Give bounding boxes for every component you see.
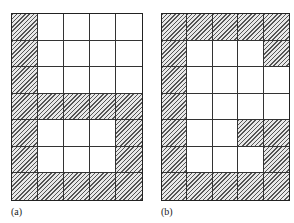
- shaded-cell: [90, 94, 116, 121]
- empty-cell: [264, 94, 289, 121]
- empty-cell: [238, 67, 263, 94]
- shaded-cell: [12, 41, 38, 68]
- empty-cell: [238, 94, 263, 121]
- empty-cell: [213, 94, 238, 121]
- empty-cell: [38, 120, 64, 147]
- empty-cell: [38, 147, 64, 174]
- shaded-cell: [187, 14, 212, 41]
- shaded-cell: [162, 120, 187, 147]
- shaded-cell: [162, 94, 187, 121]
- empty-cell: [90, 67, 116, 94]
- shaded-cell: [264, 14, 289, 41]
- shaded-cell: [64, 94, 90, 121]
- shaded-cell: [12, 94, 38, 121]
- shaded-cell: [162, 67, 187, 94]
- empty-cell: [187, 147, 212, 174]
- empty-cell: [187, 94, 212, 121]
- empty-cell: [213, 120, 238, 147]
- empty-cell: [64, 41, 90, 68]
- shaded-cell: [213, 14, 238, 41]
- shaded-cell: [12, 120, 38, 147]
- shaded-cell: [264, 41, 289, 68]
- empty-cell: [38, 67, 64, 94]
- shaded-cell: [162, 41, 187, 68]
- empty-cell: [116, 41, 142, 68]
- shaded-cell: [38, 94, 64, 121]
- shaded-cell: [12, 173, 38, 200]
- shaded-cell: [162, 147, 187, 174]
- shaded-cell: [116, 173, 142, 200]
- empty-cell: [38, 41, 64, 68]
- shaded-cell: [238, 173, 263, 200]
- empty-cell: [64, 120, 90, 147]
- shaded-cell: [238, 120, 263, 147]
- shaded-cell: [116, 147, 142, 174]
- empty-cell: [187, 67, 212, 94]
- shaded-cell: [38, 173, 64, 200]
- shaded-cell: [264, 173, 289, 200]
- empty-cell: [116, 14, 142, 41]
- shaded-cell: [213, 173, 238, 200]
- empty-cell: [238, 41, 263, 68]
- shaded-cell: [90, 173, 116, 200]
- shaded-cell: [162, 14, 187, 41]
- empty-cell: [90, 14, 116, 41]
- empty-cell: [64, 67, 90, 94]
- empty-cell: [64, 147, 90, 174]
- grid-a: [11, 13, 143, 201]
- empty-cell: [90, 147, 116, 174]
- shaded-cell: [12, 67, 38, 94]
- shaded-cell: [12, 147, 38, 174]
- empty-cell: [90, 120, 116, 147]
- empty-cell: [64, 14, 90, 41]
- grid-b: [161, 13, 290, 201]
- empty-cell: [264, 67, 289, 94]
- shaded-cell: [264, 147, 289, 174]
- shaded-cell: [116, 94, 142, 121]
- empty-cell: [38, 14, 64, 41]
- shaded-cell: [116, 120, 142, 147]
- shaded-cell: [162, 173, 187, 200]
- shaded-cell: [64, 173, 90, 200]
- label-a: (a): [11, 206, 22, 217]
- empty-cell: [90, 41, 116, 68]
- shaded-cell: [264, 120, 289, 147]
- empty-cell: [213, 67, 238, 94]
- empty-cell: [238, 147, 263, 174]
- label-b: (b): [161, 206, 173, 217]
- shaded-cell: [238, 14, 263, 41]
- shaded-cell: [187, 173, 212, 200]
- empty-cell: [213, 41, 238, 68]
- empty-cell: [213, 147, 238, 174]
- empty-cell: [187, 41, 212, 68]
- shaded-cell: [12, 14, 38, 41]
- empty-cell: [187, 120, 212, 147]
- empty-cell: [116, 67, 142, 94]
